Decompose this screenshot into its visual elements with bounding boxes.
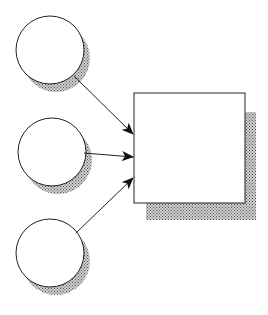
circle-body bbox=[16, 16, 84, 84]
circle-body bbox=[18, 118, 86, 186]
target-box-body bbox=[134, 93, 245, 203]
diagram-canvas bbox=[0, 0, 268, 315]
arrow-1 bbox=[74, 76, 133, 134]
target-box bbox=[134, 93, 256, 220]
arrow-3 bbox=[76, 178, 133, 233]
circle-body bbox=[16, 219, 84, 287]
input-circle-2 bbox=[18, 118, 92, 194]
